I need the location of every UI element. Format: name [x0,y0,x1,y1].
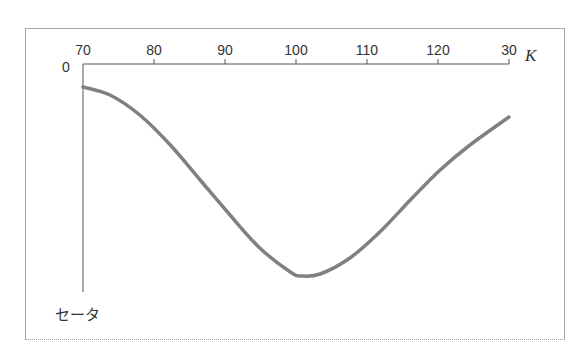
x-ticks: 70809010011012030 [75,42,517,64]
x-tick-label: 80 [146,42,162,58]
x-tick-label: 100 [284,42,308,58]
x-tick-label: 90 [217,42,233,58]
x-tick-label: 120 [426,42,450,58]
line-chart: 70809010011012030 0 K セータ [0,0,587,358]
data-curve [83,87,509,276]
origin-label: 0 [62,59,70,75]
x-tick-label: 110 [356,42,379,58]
x-tick-label: 70 [75,42,91,58]
axes [83,64,509,292]
y-axis-label: セータ [55,306,100,324]
x-axis-label: K [524,46,538,65]
x-tick-label: 30 [501,42,517,58]
